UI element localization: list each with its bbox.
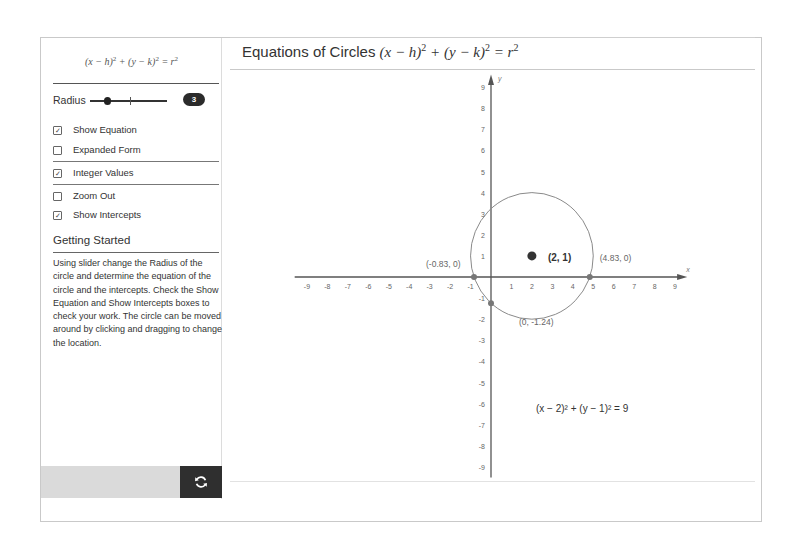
x-tick-label: -7 <box>345 283 351 290</box>
x-axis-label: x <box>685 266 690 273</box>
x-tick-label: -1 <box>467 283 473 290</box>
graph-area[interactable]: xy-9-8-7-6-5-4-3-2-1123456789987654321-1… <box>222 70 762 480</box>
radius-label: Radius <box>53 94 86 106</box>
title-formula: (x − h)2 + (y − k)2 = r2 <box>380 44 519 60</box>
sidebar-panel: (x − h)2 + (y − k)2 = r2 Radius 3 ✓ Show… <box>41 38 222 499</box>
bottom-rule <box>230 481 755 482</box>
y-tick-label: -6 <box>479 401 485 408</box>
y-tick-label: -3 <box>479 337 485 344</box>
formula-part: (x − h) <box>380 44 422 60</box>
circle-equation: (x − 2)² + (y − 1)² = 9 <box>536 403 629 414</box>
x-tick-label: 3 <box>550 283 554 290</box>
divider <box>53 252 219 253</box>
x-tick-label: 5 <box>591 283 595 290</box>
formula-part: = r <box>490 44 513 60</box>
footer-bar <box>41 466 180 498</box>
title-text: Equations of Circles <box>242 43 375 60</box>
formula-part: (x − h) <box>85 56 113 67</box>
formula-part: + (y − k) <box>116 56 155 67</box>
checkbox-label: Show Equation <box>73 124 137 135</box>
x-tick-label: -9 <box>304 283 310 290</box>
checkbox-icon[interactable]: ✓ <box>53 126 62 135</box>
checkbox-label: Integer Values <box>73 167 134 178</box>
formula-part: = r <box>159 56 175 67</box>
getting-started-heading: Getting Started <box>53 234 130 246</box>
reset-button[interactable] <box>180 466 222 498</box>
y-axis-label: y <box>497 75 502 83</box>
intercept-label: (4.83, 0) <box>600 253 632 263</box>
radius-slider[interactable] <box>90 100 167 102</box>
refresh-icon <box>194 475 208 489</box>
x-tick-label: -4 <box>406 283 412 290</box>
intercept-point <box>488 300 494 306</box>
radius-value-badge: 3 <box>183 93 205 106</box>
show-intercepts-checkbox[interactable]: ✓ Show Intercepts <box>53 209 219 225</box>
divider <box>53 161 219 162</box>
center-point-handle <box>527 251 536 260</box>
checkbox-icon[interactable] <box>53 146 62 155</box>
x-tick-label: -3 <box>427 283 433 290</box>
x-tick-label: -5 <box>386 283 392 290</box>
getting-started-text: Using slider change the Radius of the ci… <box>53 257 223 350</box>
formula-exp: 2 <box>175 55 179 63</box>
slider-thumb[interactable] <box>104 97 111 105</box>
checkbox-icon[interactable]: ✓ <box>53 211 62 220</box>
checkbox-label: Zoom Out <box>73 190 115 201</box>
x-tick-label: -8 <box>324 283 330 290</box>
zoom-out-checkbox[interactable]: Zoom Out <box>53 190 219 206</box>
y-tick-label: 5 <box>481 169 485 176</box>
x-tick-label: 7 <box>632 283 636 290</box>
expanded-form-checkbox[interactable]: Expanded Form <box>53 144 219 160</box>
x-axis-arrow-icon <box>677 274 687 280</box>
x-tick-label: 1 <box>509 283 513 290</box>
y-tick-label: -9 <box>479 464 485 471</box>
y-tick-label: -4 <box>479 358 485 365</box>
x-tick-label: 2 <box>530 283 534 290</box>
x-tick-label: 9 <box>673 283 677 290</box>
page-title: Equations of Circles (x − h)2 + (y − k)2… <box>242 42 518 61</box>
y-tick-label: -7 <box>479 422 485 429</box>
y-tick-label: -8 <box>479 443 485 450</box>
checkbox-label: Show Intercepts <box>73 209 141 220</box>
y-tick-label: 1 <box>481 253 485 260</box>
slider-tick <box>130 97 131 105</box>
x-tick-label: 6 <box>612 283 616 290</box>
intercept-point <box>471 274 477 280</box>
x-tick-label: -2 <box>447 283 453 290</box>
x-tick-label: 4 <box>571 283 575 290</box>
center-label: (2, 1) <box>548 252 571 263</box>
y-tick-label: 7 <box>481 126 485 133</box>
formula-exp: 2 <box>513 42 518 53</box>
divider <box>53 184 219 185</box>
y-tick-label: 6 <box>481 147 485 154</box>
checkbox-icon[interactable] <box>53 192 62 201</box>
x-tick-label: 8 <box>653 283 657 290</box>
divider <box>53 83 219 84</box>
x-tick-label: -6 <box>365 283 371 290</box>
radius-control: Radius 3 <box>53 93 219 109</box>
checkbox-icon[interactable]: ✓ <box>53 169 62 178</box>
y-tick-label: 9 <box>481 84 485 91</box>
show-equation-checkbox[interactable]: ✓ Show Equation <box>53 124 219 140</box>
y-tick-label: -5 <box>479 380 485 387</box>
title-top-rule <box>230 37 755 38</box>
checkbox-label: Expanded Form <box>73 144 141 155</box>
intercept-point <box>587 274 593 280</box>
y-tick-label: 4 <box>481 190 485 197</box>
general-formula: (x − h)2 + (y − k)2 = r2 <box>41 55 222 67</box>
formula-part: + (y − k) <box>426 44 485 60</box>
intercept-label: (0, -1.24) <box>519 317 554 327</box>
y-tick-label: -2 <box>479 316 485 323</box>
y-axis-arrow-icon <box>488 74 494 85</box>
coordinate-plane[interactable]: xy-9-8-7-6-5-4-3-2-1123456789987654321-1… <box>222 70 762 480</box>
y-tick-label: 2 <box>481 232 485 239</box>
intercept-label: (-0.83, 0) <box>426 259 461 269</box>
integer-values-checkbox[interactable]: ✓ Integer Values <box>53 167 219 183</box>
y-tick-label: 8 <box>481 105 485 112</box>
